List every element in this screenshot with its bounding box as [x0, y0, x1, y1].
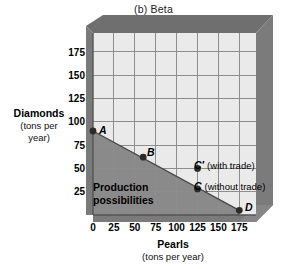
x-axis-title-main: Pearls [78, 238, 268, 251]
point-note-c-prime: (with trade) [207, 160, 255, 171]
y-tick-150: 150 [55, 70, 85, 81]
point-label-c-prime: C′ [194, 159, 204, 171]
bevel-left-face [86, 26, 93, 215]
point-label-c-prime-group: C′(with trade) [194, 155, 255, 173]
y-tick-125: 125 [55, 93, 85, 104]
x-axis-title-units: (tons per year) [78, 251, 268, 264]
y-tick-175: 175 [55, 47, 85, 58]
y-axis-title-main: Diamonds [0, 107, 78, 120]
y-axis-title-units-line2: year) [0, 132, 78, 145]
y-axis-title-units-line1: (tons per [0, 120, 78, 133]
y-tick-50: 50 [55, 163, 85, 174]
y-axis-title: Diamonds (tons per year) [0, 107, 78, 145]
y-tick-25: 25 [55, 186, 85, 197]
point-note-c: (without trade) [205, 181, 266, 192]
region-caption-line2: possibilities [93, 194, 189, 207]
point-label-c-group: C(without trade) [194, 176, 265, 194]
chart-figure: (b) Beta [0, 0, 307, 269]
bevel-bottom-face [93, 215, 256, 222]
data-point-d [236, 207, 243, 214]
bevel-top-face [86, 15, 273, 33]
point-label-a: A [99, 124, 107, 136]
x-tick-175: 175 [224, 222, 254, 233]
data-point-b [140, 154, 147, 161]
point-label-b: B [147, 146, 155, 158]
production-possibilities-caption: Production possibilities [93, 181, 189, 206]
data-point-a [90, 128, 97, 135]
region-caption-line1: Production [93, 181, 189, 194]
point-label-d: D [245, 201, 253, 213]
x-axis-title: Pearls (tons per year) [78, 238, 268, 263]
point-label-c: C [194, 180, 202, 192]
